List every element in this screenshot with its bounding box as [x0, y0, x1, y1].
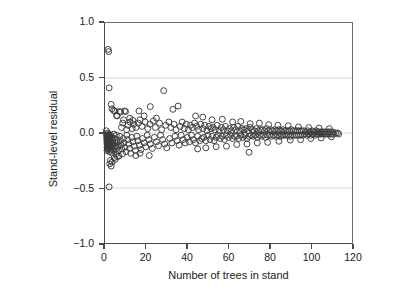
data-point: [146, 153, 152, 159]
x-tick-mark: [269, 244, 270, 249]
y-tick-mark: [99, 21, 104, 22]
x-tick-label: 40: [167, 252, 207, 263]
y-axis-title: Stand-level residual: [47, 59, 59, 219]
y-tick-mark: [99, 188, 104, 189]
data-point: [200, 114, 206, 120]
x-tick-mark: [311, 244, 312, 249]
x-tick-label: 80: [250, 252, 290, 263]
data-point: [106, 184, 112, 190]
data-point: [287, 137, 293, 143]
x-tick-label: 20: [126, 252, 166, 263]
y-tick-mark: [99, 132, 104, 133]
data-point: [193, 113, 199, 119]
x-tick-mark: [145, 244, 146, 249]
data-point: [246, 149, 252, 155]
data-point: [247, 121, 253, 127]
x-tick-label: 120: [333, 252, 373, 263]
data-point: [234, 142, 240, 148]
data-point: [173, 127, 179, 133]
x-tick-label: 0: [84, 252, 124, 263]
data-point: [203, 145, 209, 151]
data-point: [256, 120, 262, 126]
x-tick-mark: [186, 244, 187, 249]
data-point: [209, 117, 215, 123]
data-point: [106, 85, 112, 91]
data-point: [230, 119, 236, 125]
y-tick-label: 0.5: [79, 72, 94, 83]
data-point: [161, 88, 167, 94]
data-point: [157, 120, 163, 126]
y-tick-mark: [99, 77, 104, 78]
plot-area: [104, 22, 353, 244]
x-tick-label: 60: [209, 252, 249, 263]
y-tick-label: 1.0: [79, 16, 94, 27]
data-point: [195, 146, 201, 152]
y-tick-label: −0.5: [73, 183, 94, 194]
y-tick-label: −1.0: [73, 238, 94, 249]
x-tick-label: 100: [292, 252, 332, 263]
x-tick-mark: [103, 244, 104, 249]
data-point: [296, 124, 302, 130]
data-point: [219, 116, 225, 122]
x-axis-title: Number of trees in stand: [104, 269, 353, 281]
y-tick-label: 0.0: [79, 127, 94, 138]
data-point: [213, 144, 219, 150]
data-point: [175, 103, 181, 109]
data-point: [136, 108, 142, 114]
data-point: [223, 143, 229, 149]
x-tick-mark: [352, 244, 353, 249]
data-point: [238, 118, 244, 124]
scatter-plot-figure: 1.00.50.0−0.5−1.0 020406080100120 Stand-…: [0, 0, 410, 295]
x-tick-mark: [228, 244, 229, 249]
data-point: [265, 139, 271, 145]
data-point: [147, 104, 153, 110]
scatter-points: [105, 23, 352, 243]
